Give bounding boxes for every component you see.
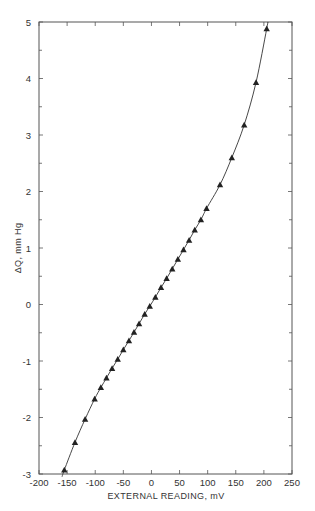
data-point	[264, 26, 270, 32]
x-tick-label: 0	[149, 477, 154, 488]
y-tick-label: 4	[26, 73, 31, 84]
data-point	[169, 266, 175, 272]
data-point	[217, 182, 223, 188]
data-point	[115, 356, 121, 362]
data-point	[103, 375, 109, 381]
fit-curve	[62, 22, 268, 477]
y-tick-label: -1	[23, 356, 31, 367]
y-tick-label: 3	[26, 130, 31, 141]
data-point	[120, 347, 126, 353]
data-point	[198, 217, 204, 223]
y-axis-title: ΔQ, mm Hg	[13, 223, 23, 274]
x-tick-label: -100	[86, 477, 105, 488]
data-point	[175, 256, 181, 262]
data-point	[158, 284, 164, 290]
data-point	[91, 396, 97, 402]
x-tick-label: 100	[200, 477, 216, 488]
x-tick-label: 200	[256, 477, 272, 488]
data-point	[136, 321, 142, 327]
x-tick-label: -200	[29, 477, 48, 488]
x-tick-label: -150	[58, 477, 77, 488]
y-tick-label: 0	[26, 299, 31, 310]
y-ticks: -3-2-1012345	[23, 17, 292, 480]
data-point	[126, 337, 132, 343]
x-ticks: -200-150-100-50050100150200250	[29, 22, 299, 488]
data-point	[192, 227, 198, 233]
x-tick-label: 250	[284, 477, 300, 488]
y-tick-label: 5	[26, 17, 31, 28]
x-axis-title: EXTERNAL READING, mV	[107, 491, 224, 501]
y-tick-label: 2	[26, 186, 31, 197]
y-tick-label: -3	[23, 469, 31, 480]
data-point	[82, 416, 88, 422]
y-tick-label: -2	[23, 412, 31, 423]
data-point	[152, 294, 158, 300]
chart: -200-150-100-50050100150200250 -3-2-1012…	[0, 0, 315, 511]
data-point	[186, 237, 192, 243]
data-point	[253, 79, 259, 85]
data-point	[109, 365, 115, 371]
data-point	[229, 154, 235, 160]
data-point	[61, 467, 67, 473]
data-point	[163, 275, 169, 281]
data-markers	[61, 26, 270, 473]
x-tick-label: 150	[228, 477, 244, 488]
y-tick-label: 1	[26, 243, 31, 254]
x-tick-label: -50	[116, 477, 130, 488]
data-point	[131, 329, 137, 335]
data-point	[180, 246, 186, 252]
data-point	[141, 311, 147, 317]
x-tick-label: 50	[174, 477, 185, 488]
data-point	[147, 303, 153, 309]
data-point	[241, 122, 247, 128]
data-point	[72, 439, 78, 445]
data-point	[98, 384, 104, 390]
data-point	[203, 205, 209, 211]
